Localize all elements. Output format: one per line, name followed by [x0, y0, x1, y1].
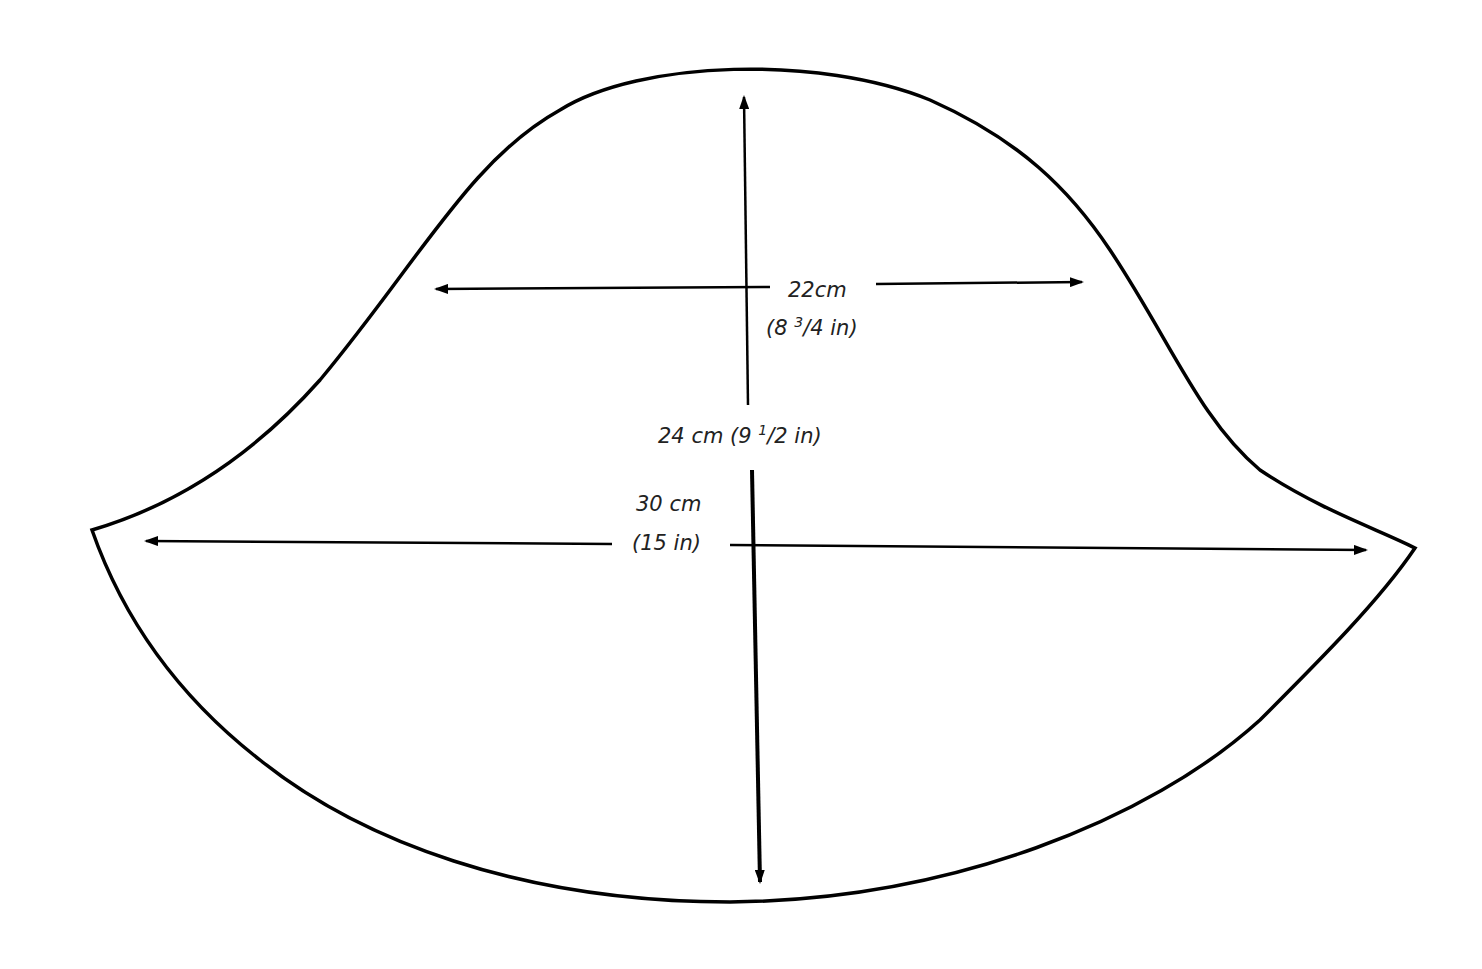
- upper-width-cm-label: 22cm: [784, 278, 851, 302]
- upper-width-in-num: 3: [794, 314, 803, 330]
- height-label: 24 cm (9 1/2 in): [654, 422, 826, 448]
- pattern-diagram: [0, 0, 1482, 969]
- lower-width-arrow-right: [730, 545, 1366, 550]
- height-in-den: 2 in): [774, 424, 821, 448]
- upper-width-arrow-left: [436, 287, 770, 289]
- lower-width-in-label: (15 in): [628, 531, 705, 555]
- height-in-num: 1: [758, 422, 767, 438]
- upper-width-in-label: (8 3/4 in): [762, 314, 862, 340]
- lower-width-arrow-left: [146, 541, 612, 544]
- height-arrow-upper: [744, 97, 748, 405]
- height-arrow-lower: [752, 470, 760, 882]
- upper-width-arrow-right: [876, 282, 1082, 284]
- lower-width-cm-label: 30 cm: [632, 492, 705, 516]
- upper-width-in-whole: (8: [766, 316, 794, 340]
- upper-width-in-den: 4 in): [810, 316, 857, 340]
- height-label-text: 24 cm (9: [658, 424, 758, 448]
